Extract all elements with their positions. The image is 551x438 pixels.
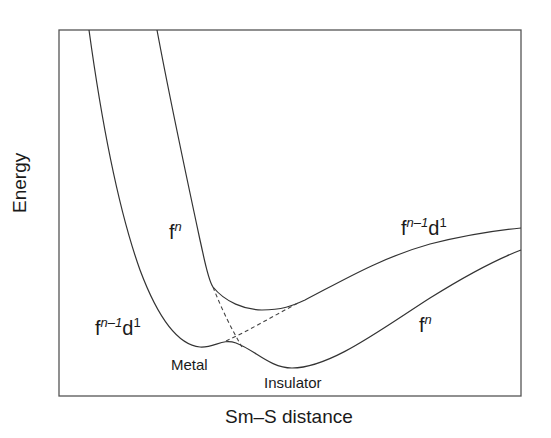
label-fn-upper-left: fn (169, 220, 182, 242)
energy-diagram-plot (0, 0, 551, 438)
label-metal-text: Metal (171, 356, 208, 373)
x-axis-label-text: Sm–S distance (225, 406, 353, 427)
plot-frame (59, 30, 521, 396)
label-fn-lower-right: fn (419, 313, 432, 335)
label-base: d (122, 317, 133, 339)
label-superscript: n–1 (101, 315, 123, 330)
lower-energy-curve (89, 30, 521, 368)
x-axis-label: Sm–S distance (225, 407, 353, 426)
label-insulator-text: Insulator (264, 374, 322, 391)
label-fn1d1-lower-left: fn–1d1 (95, 316, 141, 338)
label-superscript: n (175, 219, 182, 234)
label-superscript: n–1 (407, 215, 429, 230)
label-superscript: 1 (133, 315, 140, 330)
label-base: d (428, 217, 439, 239)
dashed-fn1d1-continuation (226, 302, 300, 341)
upper-energy-curve (157, 30, 521, 310)
dashed-fn-continuation (213, 287, 242, 347)
label-superscript: 1 (439, 215, 446, 230)
label-superscript: n (425, 312, 432, 327)
label-insulator: Insulator (264, 375, 322, 390)
label-fn1d1-upper-right: fn–1d1 (401, 216, 447, 238)
label-metal: Metal (171, 357, 208, 372)
y-axis-label-text: Energy (9, 153, 30, 213)
y-axis-label: Energy (10, 153, 29, 213)
